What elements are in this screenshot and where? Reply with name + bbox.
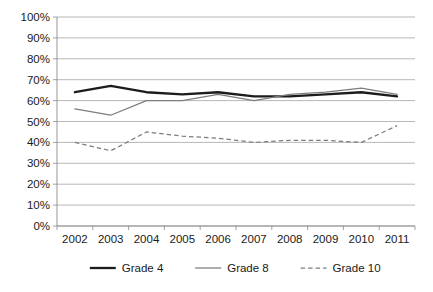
x-tick-label-2007: 2007 bbox=[241, 233, 267, 245]
legend-label-grade-8: Grade 8 bbox=[227, 262, 269, 274]
y-tick-label: 20% bbox=[27, 178, 50, 190]
x-tick-label-2008: 2008 bbox=[277, 233, 303, 245]
x-tick-label-2002: 2002 bbox=[62, 233, 88, 245]
line-chart: 0%10%20%30%40%50%60%70%80%90%100% 200220… bbox=[0, 0, 433, 292]
y-tick-label: 10% bbox=[27, 199, 50, 211]
y-tick-label: 40% bbox=[27, 136, 50, 148]
legend-label-grade-10: Grade 10 bbox=[333, 262, 381, 274]
y-tick-label: 100% bbox=[21, 11, 50, 23]
y-tick-label: 30% bbox=[27, 157, 50, 169]
x-tick-label-2006: 2006 bbox=[205, 233, 231, 245]
y-tick-label: 70% bbox=[27, 74, 50, 86]
y-tick-label: 90% bbox=[27, 32, 50, 44]
chart-legend: Grade 4Grade 8Grade 10 bbox=[90, 262, 381, 274]
x-tick-label-2011: 2011 bbox=[385, 233, 410, 245]
y-tick-label: 80% bbox=[27, 53, 50, 65]
x-tick-label-2003: 2003 bbox=[98, 233, 124, 245]
y-tick-label: 60% bbox=[27, 95, 50, 107]
y-tick-label: 0% bbox=[33, 220, 50, 232]
legend-label-grade-4: Grade 4 bbox=[122, 262, 164, 274]
x-tick-label-2004: 2004 bbox=[134, 233, 160, 245]
x-tick-label-2010: 2010 bbox=[349, 233, 375, 245]
x-tick-label-2005: 2005 bbox=[170, 233, 196, 245]
chart-container: 0%10%20%30%40%50%60%70%80%90%100% 200220… bbox=[0, 0, 433, 292]
y-tick-label: 50% bbox=[27, 116, 50, 128]
chart-background bbox=[0, 0, 433, 292]
x-tick-label-2009: 2009 bbox=[313, 233, 339, 245]
